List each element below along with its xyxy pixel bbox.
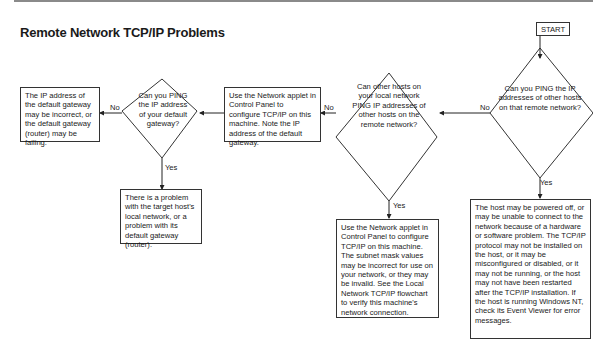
host-problem-box: The host may be powered off, or may be u… bbox=[470, 199, 591, 339]
local-network-problem-box: There is a problem with the target host'… bbox=[120, 189, 202, 244]
d1-no-label: No bbox=[480, 103, 490, 112]
gateway-problem-box: The IP address of the default gateway ma… bbox=[20, 87, 100, 142]
d2-yes-label: Yes bbox=[393, 201, 405, 210]
subnet-mask-box: Use the Network applet in Control Panel … bbox=[336, 219, 439, 318]
d3-yes-label: Yes bbox=[165, 163, 177, 172]
decision-diamond-1 bbox=[490, 48, 593, 178]
decision-3-text: Can you PING the IP address of your defa… bbox=[136, 91, 190, 129]
decision-1-text: Can you PING the IP addresses of other h… bbox=[498, 84, 582, 112]
d3-no-label: No bbox=[110, 103, 120, 112]
d2-no-label: No bbox=[324, 103, 334, 112]
d1-yes-label: Yes bbox=[540, 178, 552, 187]
start-terminal: START bbox=[536, 22, 570, 36]
decision-2-text: Can other hosts on your local network PI… bbox=[352, 82, 426, 129]
configure-tcpip-box: Use the Network applet in Control Panel … bbox=[224, 87, 321, 142]
